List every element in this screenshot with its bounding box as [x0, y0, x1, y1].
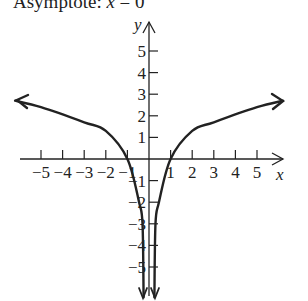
x-tick-label: −2 [97, 163, 115, 182]
y-tick-label: 1 [138, 128, 147, 147]
y-tick-label: 2 [138, 107, 147, 126]
x-tick-label: 5 [253, 163, 262, 182]
y-axis-label: y [132, 15, 142, 34]
x-tick-label: 4 [231, 163, 240, 182]
left-branch-curve [15, 101, 144, 298]
x-tick-label: −3 [75, 163, 93, 182]
axes [20, 22, 283, 296]
x-tick-label: −4 [54, 163, 73, 182]
function-graph: −5−4−3−2−112345 54321−1−2−3−4−5 x y [0, 0, 308, 301]
x-tick-labels: −5−4−3−2−112345 [32, 163, 261, 182]
y-tick-label: 5 [138, 42, 147, 61]
x-axis-label: x [275, 165, 284, 184]
y-tick-label: 4 [138, 64, 147, 83]
x-tick-label: 3 [210, 163, 219, 182]
x-tick-label: −5 [32, 163, 50, 182]
x-tick-label: 2 [188, 163, 197, 182]
right-branch-curve [154, 101, 283, 298]
y-tick-label: 3 [138, 85, 147, 104]
